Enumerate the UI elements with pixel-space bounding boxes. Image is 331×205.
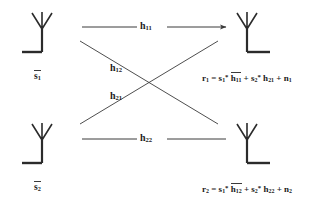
channel-label-h11: h11: [140, 21, 152, 32]
channel-label-h22: h22: [140, 133, 152, 144]
receiver-antenna-2-icon: [237, 123, 270, 163]
diagram-lines-layer: [0, 0, 331, 205]
transmitter-antenna-1-icon: [22, 12, 52, 52]
source-label-s2: s2: [34, 181, 41, 193]
channel-label-h21: h21: [110, 91, 122, 102]
transmitter-antenna-2-icon: [22, 123, 52, 163]
channel-label-h12: h12: [110, 63, 122, 74]
equation-r1: r1 = s1* h11 + s2* h21 + n1: [202, 72, 292, 84]
receiver-antenna-1-icon: [237, 12, 270, 52]
source-label-s1: s1: [34, 70, 41, 82]
mimo-channel-diagram: h11 h12 h21 h22 s1 s2 r1 = s1* h11 + s2*…: [0, 0, 331, 205]
equation-r2: r2 = s1* h12 + s2* h22 + n2: [202, 183, 292, 195]
